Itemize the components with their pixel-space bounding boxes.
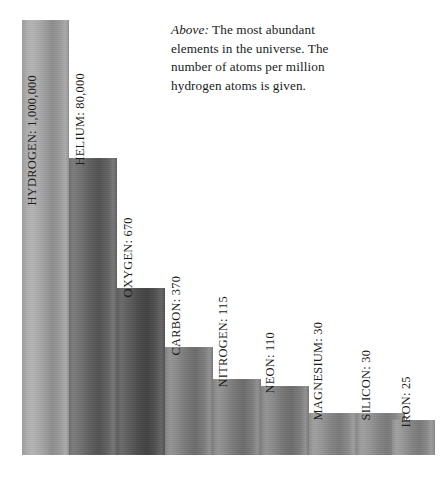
bar-nitrogen xyxy=(213,379,261,455)
bar-helium xyxy=(69,158,117,455)
bar-label-neon: NEON: 110 xyxy=(264,332,276,393)
bar-neon xyxy=(261,386,309,455)
bar-label-oxygen: OXYGEN: 670 xyxy=(122,217,134,297)
figure-caption: Above: The most abundant elements in the… xyxy=(171,21,331,95)
bar-fill xyxy=(213,379,261,455)
bar-fill xyxy=(117,288,165,455)
bar-label-silicon: SILICON: 30 xyxy=(360,350,372,421)
bar-label-carbon: CARBON: 370 xyxy=(170,276,182,356)
bar-oxygen xyxy=(117,288,165,455)
bar-fill xyxy=(261,386,309,455)
bar-label-nitrogen: NITROGEN: 115 xyxy=(217,296,229,387)
bar-fill xyxy=(165,347,213,455)
abundance-chart-figure: HYDROGEN: 1,000,000HELIUM: 80,000OXYGEN:… xyxy=(0,0,447,479)
bar-label-iron: IRON: 25 xyxy=(400,376,412,427)
bar-label-helium: HELIUM: 80,000 xyxy=(74,73,86,165)
bar-fill xyxy=(69,158,117,455)
bar-label-hydrogen: HYDROGEN: 1,000,000 xyxy=(26,75,38,205)
bar-label-magnesium: MAGNESIUM: 30 xyxy=(312,322,324,421)
bar-carbon xyxy=(165,347,213,455)
caption-lead-in: Above: xyxy=(171,22,209,37)
